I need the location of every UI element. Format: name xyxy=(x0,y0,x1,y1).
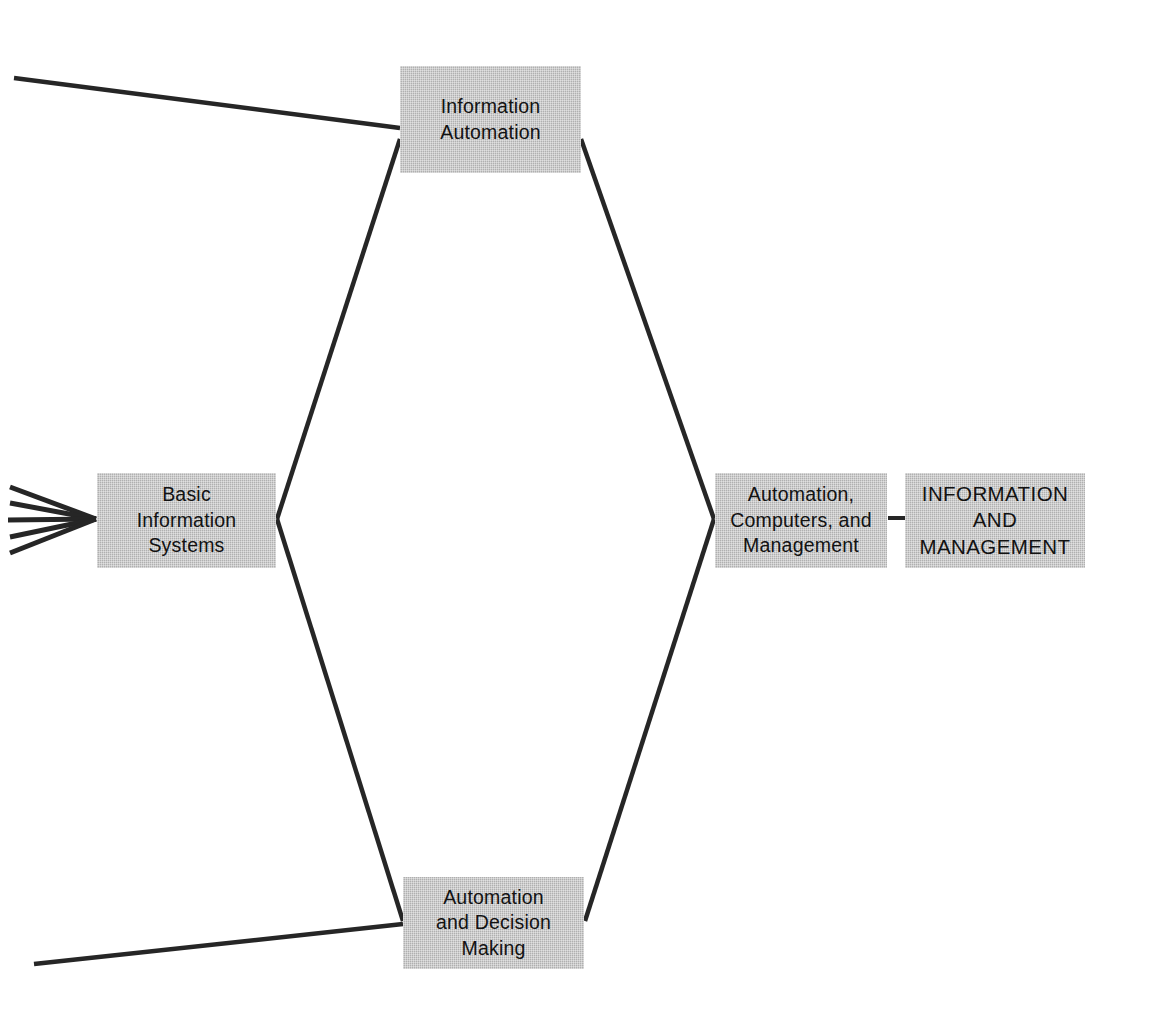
edge-offcanvas-top-to-information-automation xyxy=(14,78,400,128)
node-basic-information-systems-label: Basic Information Systems xyxy=(137,482,237,558)
node-information-automation[interactable]: Information Automation xyxy=(400,66,581,173)
node-basic-information-systems[interactable]: Basic Information Systems xyxy=(97,473,276,568)
edge-incoming-1 xyxy=(10,487,96,519)
edge-incoming-3 xyxy=(8,519,96,520)
edge-basic-to-automation-decision-making xyxy=(277,519,403,921)
node-information-automation-label: Information Automation xyxy=(440,94,541,145)
node-automation-computers-management[interactable]: Automation, Computers, and Management xyxy=(715,473,887,568)
edge-incoming-4 xyxy=(10,519,96,537)
diagram-canvas: Information Automation Basic Information… xyxy=(0,0,1156,1036)
edge-automation-decision-to-automation-computers xyxy=(585,519,714,921)
edge-information-automation-to-automation-computers xyxy=(581,139,714,519)
edge-automation-computers-to-information-and-management xyxy=(888,516,905,520)
node-information-and-management[interactable]: INFORMATION AND MANAGEMENT xyxy=(905,473,1085,568)
node-automation-decision-making[interactable]: Automation and Decision Making xyxy=(403,877,584,969)
edge-incoming-5 xyxy=(10,519,96,553)
node-information-and-management-label: INFORMATION AND MANAGEMENT xyxy=(920,481,1071,560)
edge-incoming-2 xyxy=(10,503,96,519)
edge-offcanvas-bottom-to-automation-decision xyxy=(34,924,403,964)
edge-basic-to-information-automation xyxy=(277,139,400,519)
node-automation-decision-making-label: Automation and Decision Making xyxy=(436,885,551,961)
node-automation-computers-management-label: Automation, Computers, and Management xyxy=(730,482,872,558)
